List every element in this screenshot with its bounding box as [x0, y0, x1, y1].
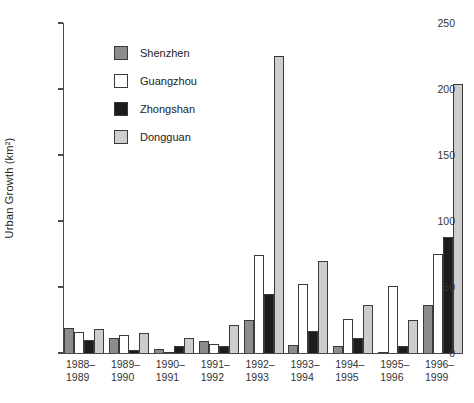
- y-tick: [58, 88, 63, 90]
- y-tick-label: 50: [415, 281, 455, 293]
- bar-shenzhen-0: [64, 328, 74, 353]
- legend-label: Guangzhou: [140, 75, 197, 87]
- bar-shenzhen-7: [378, 352, 388, 353]
- bar-group-1991-1992: [199, 325, 239, 353]
- bar-shenzhen-2: [154, 349, 164, 353]
- y-tick: [58, 352, 63, 354]
- x-axis-label: 1990–1991: [153, 358, 193, 383]
- bar-shenzhen-4: [244, 320, 254, 353]
- bar-zhongshan-4: [264, 294, 274, 353]
- bar-guangzhou-4: [254, 255, 264, 353]
- bar-zhongshan-7: [398, 346, 408, 353]
- x-axis-label: 1996–1999: [422, 358, 462, 383]
- bar-group-1990-1991: [154, 338, 194, 353]
- bar-guangzhou-6: [343, 319, 353, 353]
- urban-growth-bar-chart: Urban Growth (km²) ShenzhenGuangzhouZhon…: [0, 0, 474, 403]
- bar-guangzhou-3: [209, 344, 219, 353]
- x-axis-label: 1993–1994: [287, 358, 327, 383]
- bar-shenzhen-1: [109, 338, 119, 353]
- legend-swatch-dongguan: [114, 130, 128, 144]
- legend-item-shenzhen: Shenzhen: [114, 45, 197, 60]
- bar-dongguan-6: [363, 305, 373, 353]
- bar-dongguan-1: [139, 333, 149, 353]
- bar-zhongshan-6: [353, 338, 363, 353]
- legend-swatch-zhongshan: [114, 102, 128, 116]
- bar-guangzhou-8: [433, 254, 443, 353]
- bar-group-1989-1990: [109, 333, 149, 353]
- bar-guangzhou-2: [164, 352, 174, 353]
- bar-guangzhou-7: [388, 286, 398, 353]
- bar-dongguan-5: [318, 261, 328, 353]
- legend: ShenzhenGuangzhouZhongshanDongguan: [114, 45, 197, 157]
- bar-group-1992-1993: [244, 56, 284, 353]
- bar-guangzhou-0: [74, 332, 84, 353]
- bar-shenzhen-5: [288, 345, 298, 353]
- bar-group-1993-1994: [288, 261, 328, 353]
- bar-zhongshan-8: [443, 237, 453, 353]
- y-tick-label: 250: [415, 17, 455, 29]
- bar-dongguan-3: [229, 325, 239, 353]
- y-tick: [58, 154, 63, 156]
- x-axis-labels: 1988–19891989–19901990–19911991–19921992…: [63, 358, 462, 383]
- bar-group-1995-1996: [378, 286, 418, 353]
- y-tick: [58, 286, 63, 288]
- y-tick-label: 200: [415, 83, 455, 95]
- bar-zhongshan-2: [174, 346, 184, 353]
- bar-guangzhou-5: [298, 284, 308, 353]
- bar-shenzhen-3: [199, 341, 209, 353]
- bar-zhongshan-3: [219, 346, 229, 353]
- x-axis-label: 1989–1990: [108, 358, 148, 383]
- y-tick-label: 150: [415, 149, 455, 161]
- x-axis-label: 1992–1993: [243, 358, 283, 383]
- x-axis-label: 1988–1989: [63, 358, 103, 383]
- bar-dongguan-4: [274, 56, 284, 353]
- y-tick: [58, 220, 63, 222]
- bar-zhongshan-1: [129, 350, 139, 353]
- bar-dongguan-0: [94, 329, 104, 353]
- legend-label: Dongguan: [140, 131, 191, 143]
- bar-group-1988-1989: [64, 328, 104, 353]
- bar-group-1994-1995: [333, 305, 373, 353]
- y-tick-label: 100: [415, 215, 455, 227]
- legend-item-dongguan: Dongguan: [114, 129, 197, 144]
- bar-shenzhen-6: [333, 346, 343, 353]
- legend-item-guangzhou: Guangzhou: [114, 73, 197, 88]
- y-tick: [58, 22, 63, 24]
- x-axis-label: 1991–1992: [198, 358, 238, 383]
- x-axis-label: 1994–1995: [332, 358, 372, 383]
- bar-zhongshan-0: [84, 340, 94, 353]
- bar-zhongshan-5: [308, 331, 318, 353]
- legend-item-zhongshan: Zhongshan: [114, 101, 197, 116]
- y-axis-title: Urban Growth (km²): [3, 138, 15, 239]
- bar-guangzhou-1: [119, 335, 129, 353]
- plot-area: ShenzhenGuangzhouZhongshanDongguan 05010…: [63, 23, 463, 354]
- legend-swatch-shenzhen: [114, 46, 128, 60]
- legend-swatch-guangzhou: [114, 74, 128, 88]
- legend-label: Zhongshan: [140, 103, 195, 115]
- x-axis-label: 1995–1996: [377, 358, 417, 383]
- bar-dongguan-2: [184, 338, 194, 353]
- bar-shenzhen-8: [423, 305, 433, 353]
- legend-label: Shenzhen: [140, 47, 190, 59]
